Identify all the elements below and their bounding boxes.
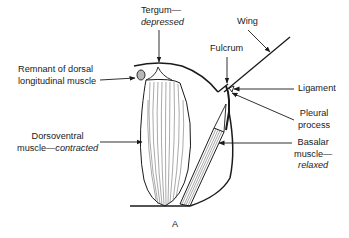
remnant-label-line2: longitudinal muscle [18, 76, 96, 88]
dorsoventral-label-line1: Dorsoventral [17, 131, 98, 143]
dorsoventral-label-line2-italic: contracted [55, 143, 98, 153]
remnant-muscle-ellipse [137, 70, 145, 80]
wing-mechanism-diagram: Tergum— depressed Wing Fulcrum Ligament … [0, 0, 349, 238]
pleural-process-label: Pleural process [298, 108, 330, 131]
wing-arrow [248, 30, 270, 52]
tergum-label-line2: depressed [141, 17, 184, 29]
pleural-process-label-line1: Pleural [298, 108, 330, 120]
basalar-label-line3: relaxed [294, 160, 332, 172]
basalar-tendon [214, 104, 226, 132]
diagram-artwork [0, 0, 349, 238]
dorsoventral-label: Dorsoventral muscle—contracted [17, 131, 98, 154]
wing-label: Wing [237, 16, 258, 28]
remnant-label: Remnant of dorsal longitudinal muscle [18, 64, 96, 87]
pleural-process-arrow [232, 93, 294, 120]
remnant-arrow [100, 78, 135, 80]
dorsoventral-label-line2: muscle—contracted [17, 143, 98, 155]
basalar-label-line1: Basalar [294, 137, 332, 149]
remnant-label-line1: Remnant of dorsal [18, 64, 96, 76]
pleural-process [226, 86, 229, 130]
dorsoventral-label-line2-plain: muscle— [17, 143, 55, 153]
tergum-label-line1: Tergum— [141, 5, 184, 17]
pleural-process-label-line2: process [298, 120, 330, 132]
ligament-label: Ligament [298, 83, 336, 95]
basalar-label-line2: muscle— [294, 149, 332, 161]
panel-label: A [172, 219, 178, 231]
basalar-muscle-label: Basalar muscle— relaxed [294, 137, 332, 172]
muscle-tendon-cusp [146, 67, 172, 80]
fulcrum-label: Fulcrum [210, 43, 243, 55]
tergum-label: Tergum— depressed [141, 5, 184, 28]
